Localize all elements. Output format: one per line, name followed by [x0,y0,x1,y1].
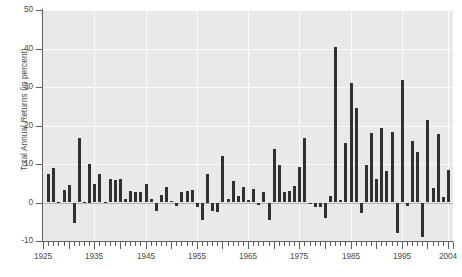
bar-1946 [150,199,153,203]
bar-1978 [314,203,317,208]
x-tick-minor [105,242,106,246]
x-tick-minor [84,242,85,246]
bar-1928 [57,202,60,203]
x-tick-major [351,242,352,249]
x-tick-minor [330,242,331,246]
x-tick-minor [289,242,290,246]
x-tick-major [146,242,147,249]
x-tick-minor [422,242,423,246]
bar-1926 [47,174,50,202]
bar-1993 [391,132,394,202]
x-tick-minor [284,242,285,246]
bar-1957 [206,174,209,203]
bar-1980 [324,203,327,218]
x-tick-minor [356,242,357,246]
x-tick-label: 1985 [331,252,371,261]
bar-1940 [119,179,122,202]
x-tick-minor [433,242,434,246]
bar-1979 [319,203,322,207]
bar-1952 [180,192,183,202]
bar-1976 [303,138,306,203]
y-tick-label: 20 [0,121,33,130]
x-tick-major [69,242,70,249]
x-tick-minor [443,242,444,246]
bar-1992 [385,171,388,202]
bar-1998 [416,152,419,202]
bar-1996 [406,203,409,206]
bar-1958 [211,203,214,211]
bar-1937 [104,202,107,203]
bar-1948 [160,195,163,203]
bar-1985 [350,83,353,202]
bar-1956 [201,203,204,220]
bar-1966 [252,189,255,203]
x-tick-minor [279,242,280,246]
x-tick-minor [181,242,182,246]
bar-2004 [447,170,450,203]
gridline-vertical [94,10,95,241]
bar-1927 [52,168,55,202]
bar-1977 [309,203,312,204]
x-tick-label: 1975 [279,252,319,261]
x-tick-minor [386,242,387,246]
bar-1991 [380,128,383,202]
x-tick-minor [310,242,311,246]
bar-1942 [129,191,132,203]
bar-1945 [145,184,148,202]
y-tick-label: 10 [0,159,33,168]
bar-2000 [426,120,429,203]
bar-1995 [401,80,404,202]
bar-1984 [344,143,347,202]
bar-1951 [175,203,178,206]
x-tick-minor [161,242,162,246]
x-tick-minor [64,242,65,246]
x-tick-minor [58,242,59,246]
bar-1929 [63,190,66,203]
x-tick-minor [99,242,100,246]
x-tick-minor [294,242,295,246]
x-tick-label: 1925 [23,252,63,261]
x-tick-minor [438,242,439,246]
bar-1944 [139,192,142,202]
x-tick-minor [361,242,362,246]
x-tick-major [299,242,300,249]
x-tick-label: 2004 [428,252,462,261]
x-tick-major [171,242,172,249]
bar-1982 [334,47,337,203]
bar-1964 [242,187,245,202]
x-tick-label: 1945 [126,252,166,261]
bar-1989 [370,133,373,203]
bar-1939 [114,180,117,203]
bar-1987 [360,203,363,213]
bar-1960 [221,156,224,203]
bar-1932 [78,138,81,203]
x-tick-minor [392,242,393,246]
bar-1999 [421,203,424,237]
bar-1969 [268,203,271,220]
bar-1954 [191,190,194,203]
bar-1962 [232,181,235,203]
zero-baseline [43,203,453,204]
bar-1949 [165,187,168,202]
x-tick-minor [207,242,208,246]
x-tick-minor [397,242,398,246]
x-tick-minor [263,242,264,246]
bar-1973 [288,191,291,203]
x-tick-major [402,242,403,249]
bar-1983 [339,200,342,203]
bar-1965 [247,200,250,203]
x-tick-minor [48,242,49,246]
x-tick-major [453,242,454,249]
y-tick-label: 0 [0,198,33,207]
x-tick-minor [140,242,141,246]
x-tick-minor [340,242,341,246]
x-tick-minor [320,242,321,246]
x-tick-minor [187,242,188,246]
y-tick-label: -10 [0,236,33,245]
x-tick-major [427,242,428,249]
x-tick-major [448,242,449,249]
x-tick-minor [371,242,372,246]
x-tick-minor [53,242,54,246]
bar-1971 [278,165,281,203]
